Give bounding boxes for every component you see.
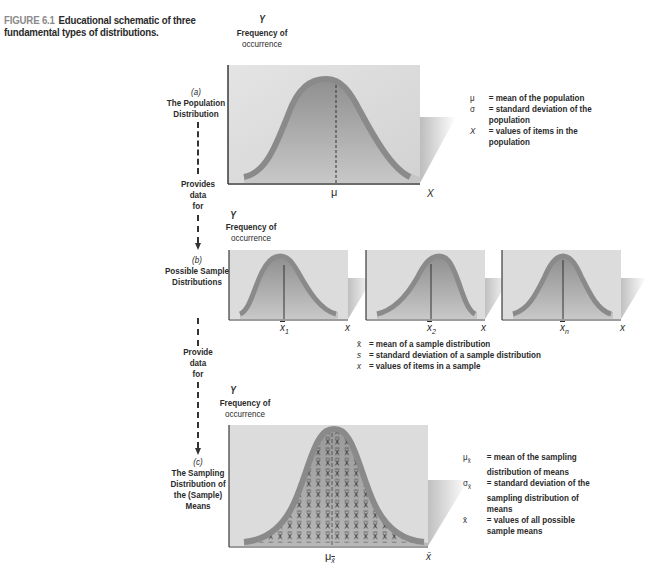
sample-1-mean-label: x1	[280, 322, 289, 335]
panel-a-x-axis-letter: X	[427, 188, 434, 199]
panel-c-y-axis-letter: Y	[227, 385, 239, 396]
legend-item-mu: μ= mean of the population	[470, 92, 592, 103]
legend-item-sigma-xbar: σx̄= standard deviation of the	[463, 477, 590, 492]
sample-distribution-1-chart	[228, 248, 373, 322]
connector-dashed-line-3	[197, 318, 199, 346]
legend-item-mu-xbar: μx̄= mean of the sampling	[463, 451, 590, 466]
legend-item-s: s= standard deviation of a sample distri…	[357, 349, 541, 360]
legend-item-sigma: σ= standard deviation of the	[470, 103, 592, 114]
connector-1-label: Provides data for	[173, 178, 224, 211]
panel-b-title: (b) Possible Sample Distributions	[161, 254, 232, 287]
panel-a-legend: μ= mean of the population σ= standard de…	[470, 92, 592, 147]
panel-c-mu-label: μx̄	[325, 550, 335, 564]
panel-c-title: (c) The Sampling Distribution of the (Sa…	[164, 456, 232, 511]
connector-dashed-line-2	[197, 215, 199, 243]
sample-n-x-axis-letter: x	[620, 322, 625, 333]
connector-2-label: Provide data for	[173, 346, 224, 379]
sample-distribution-n-chart	[501, 248, 646, 322]
panel-a-y-label: Frequency of occurrence	[218, 27, 306, 49]
panel-a-title: (a) The Population Distribution	[165, 86, 226, 119]
panel-c-x-axis-letter: x̄	[426, 551, 431, 562]
legend-item-xbar-values: x̄= values of all possible	[463, 514, 590, 525]
sample-1-x-axis-letter: x	[345, 322, 350, 333]
sample-distribution-2-chart	[365, 248, 510, 322]
panel-c-chart	[228, 425, 468, 549]
panel-a-chart	[226, 65, 466, 187]
legend-item-x-sample: x= values of items in a sample	[357, 360, 541, 371]
figure-label: FIGURE 6.1	[4, 14, 55, 26]
panel-a-mu-label: μ	[331, 186, 337, 198]
arrow-down-icon	[195, 448, 201, 455]
panel-b-y-axis-letter: Y	[227, 210, 239, 221]
panel-b-legend: x̄= mean of a sample distribution s= sta…	[357, 338, 541, 371]
panel-c-y-label: Frequency of occurrence	[210, 397, 280, 419]
panel-b-y-label: Frequency of occurrence	[216, 221, 286, 243]
figure-caption: FIGURE 6.1Educational schematic of three…	[4, 14, 216, 38]
sample-2-mean-label: x2	[427, 322, 436, 335]
sample-n-mean-label: xn	[560, 322, 569, 335]
connector-dashed-line-1	[197, 122, 199, 174]
panel-a-y-axis-letter: Y	[256, 14, 268, 25]
arrow-down-icon	[195, 243, 201, 250]
connector-dashed-line-4	[197, 382, 199, 448]
panel-c-legend: μx̄= mean of the sampling distribution o…	[463, 451, 590, 536]
sample-2-x-axis-letter: x	[481, 322, 486, 333]
legend-item-xbar: x̄= mean of a sample distribution	[357, 338, 541, 349]
legend-item-x: X= values of items in the	[470, 125, 592, 136]
